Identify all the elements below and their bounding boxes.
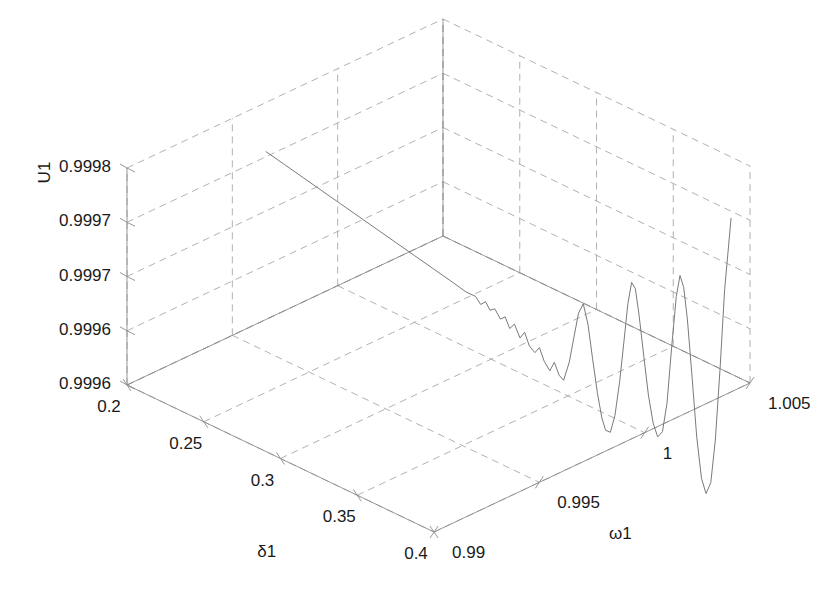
y-tick-label-1: 0.995: [557, 494, 600, 511]
wall-right-grid-horiz: [127, 128, 443, 277]
z-tick-label-3: 0.9997: [59, 212, 111, 229]
tick-u1: [127, 168, 135, 172]
u1-response-curve: [266, 152, 731, 494]
tick-u1: [120, 273, 127, 277]
floor-grid-omega1: [232, 335, 539, 482]
y-tick-label-0: 0.99: [452, 544, 485, 561]
tick-delta1: [353, 489, 361, 501]
x-tick-label-0: 0.2: [97, 398, 121, 415]
data-curve-group: [266, 152, 731, 494]
x-tick-label-2: 0.3: [251, 471, 275, 488]
floor-edge-back-right: [127, 236, 443, 385]
tick-u1: [127, 222, 135, 226]
wall-right-grid-horiz: [127, 182, 443, 331]
axis-title-omega1: ω1: [609, 524, 632, 541]
wall-right-grid-horiz: [127, 73, 443, 222]
axis-lines-group: [127, 19, 750, 532]
tick-delta1: [277, 453, 285, 465]
floor-grid-omega1: [338, 286, 645, 433]
y-tick-label-2: 1: [663, 444, 672, 461]
tick-u1: [120, 218, 127, 222]
gridlines-group: [127, 19, 750, 532]
wall-right-grid-horiz: [127, 19, 443, 168]
z-tick-label-0: 0.9996: [59, 375, 111, 392]
z-tick-label-1: 0.9996: [59, 320, 111, 337]
x-tick-label-3: 0.35: [323, 508, 356, 525]
tick-u1: [127, 277, 135, 281]
floor-grid-delta1: [357, 346, 673, 495]
tick-marks-group: [120, 164, 754, 538]
tick-omega1: [641, 427, 649, 439]
z-tick-label-2: 0.9997: [59, 266, 111, 283]
tick-omega1: [535, 476, 543, 488]
tick-u1: [120, 327, 127, 331]
tick-u1: [127, 331, 135, 335]
axis-title-u1: U1: [36, 152, 53, 192]
tick-u1: [120, 164, 127, 168]
plot-canvas: 0.99960.99960.99970.99970.9998U10.20.250…: [0, 0, 829, 589]
floor-grid-delta1: [281, 310, 597, 459]
y-tick-label-3: 1.005: [768, 395, 811, 412]
tick-delta1: [200, 416, 208, 428]
z-tick-label-4: 0.9998: [59, 158, 111, 175]
x-tick-label-1: 0.25: [169, 434, 202, 451]
axis-title-delta1: δ1: [257, 543, 276, 560]
x-tick-label-4: 0.4: [404, 545, 428, 562]
plot-3d-svg: [0, 0, 829, 589]
